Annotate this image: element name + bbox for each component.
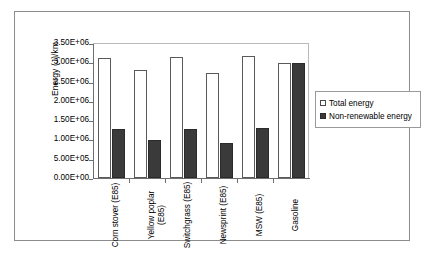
bar-group xyxy=(237,43,273,178)
y-axis-tick-label: 1.00E+06 xyxy=(41,134,89,143)
bar-non-renewable-energy xyxy=(112,129,125,178)
legend-item-label: Non-renewable energy xyxy=(329,112,412,121)
y-axis-tick-label: 2.50E+06 xyxy=(41,77,89,86)
y-axis-tick-label: 1.50E+06 xyxy=(41,115,89,124)
x-axis-category-label-text: Gasoline xyxy=(291,180,301,250)
y-axis-tick-label: 3.50E+06 xyxy=(41,38,89,47)
bar-non-renewable-energy xyxy=(292,63,305,178)
x-axis-category-label-text: Newsprint (E85) xyxy=(219,180,229,250)
x-axis-category-label: Yellow poplar (E85) xyxy=(129,180,165,252)
x-axis-category-label-text: Yellow poplar (E85) xyxy=(147,180,166,250)
y-axis-tick-label: 3.00E+06 xyxy=(41,57,89,66)
bar-non-renewable-energy xyxy=(220,143,233,178)
bar-group xyxy=(129,43,165,178)
bar-non-renewable-energy xyxy=(256,128,269,178)
y-axis-tick-label: 5.00E+05 xyxy=(41,154,89,163)
x-axis-category-label-text: Corn stover (E85) xyxy=(111,180,121,250)
legend-item-label: Total energy xyxy=(329,99,374,108)
chart-frame: Energy (J)/km 0.00E+005.00E+051.00E+061.… xyxy=(14,11,410,241)
x-axis-category-labels: Corn stover (E85)Yellow poplar (E85)Swit… xyxy=(93,180,310,252)
bar-total-energy xyxy=(134,70,147,178)
bar-total-energy xyxy=(206,73,219,178)
legend-item: Non-renewable energy xyxy=(320,110,417,122)
chart-figure: Energy (J)/km 0.00E+005.00E+051.00E+061.… xyxy=(0,0,425,255)
bar-total-energy xyxy=(170,57,183,179)
bar-total-energy xyxy=(278,63,291,178)
bar-total-energy xyxy=(242,56,255,178)
x-axis-category-label-text: Switchgrass (E85) xyxy=(183,180,193,250)
x-axis-category-label: Corn stover (E85) xyxy=(93,180,129,252)
y-axis-tick-labels: 0.00E+005.00E+051.00E+061.50E+062.00E+06… xyxy=(41,38,89,179)
legend-swatch-non-renewable-energy-icon xyxy=(320,113,326,119)
legend-item: Total energy xyxy=(320,97,417,109)
bar-group xyxy=(165,43,201,178)
bar-group xyxy=(93,43,129,178)
legend-swatch-total-energy-icon xyxy=(320,100,326,106)
x-axis-category-label: Gasoline xyxy=(273,180,309,252)
plot-area xyxy=(93,43,309,178)
bar-total-energy xyxy=(98,58,111,178)
y-axis-tick-label: 2.00E+06 xyxy=(41,96,89,105)
bar-group xyxy=(273,43,309,178)
bar-group xyxy=(201,43,237,178)
y-axis-tick-label: 0.00E+00 xyxy=(41,173,89,182)
x-axis-category-label: MSW (E85) xyxy=(237,180,273,252)
x-axis-category-label: Switchgrass (E85) xyxy=(165,180,201,252)
bar-non-renewable-energy xyxy=(184,129,197,178)
x-axis-category-label-text: MSW (E85) xyxy=(255,180,265,250)
bar-non-renewable-energy xyxy=(148,140,161,178)
chart-legend: Total energyNon-renewable energy xyxy=(315,91,421,128)
x-axis-category-label: Newsprint (E85) xyxy=(201,180,237,252)
